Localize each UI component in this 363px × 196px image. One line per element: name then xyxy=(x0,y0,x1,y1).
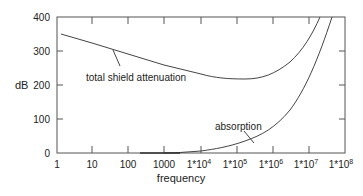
x-tick-label-10: 10 xyxy=(86,159,98,170)
y-axis-label: dB xyxy=(15,79,28,91)
annotation-leader-total xyxy=(113,50,120,66)
x-tick-label-1e8: 1*108 xyxy=(329,158,354,170)
x-ticks-top xyxy=(92,17,309,24)
y-ticks-left xyxy=(57,51,63,119)
series-absorption xyxy=(164,17,332,153)
y-tick-label-0: 0 xyxy=(44,148,50,159)
y-tick-label-100: 100 xyxy=(33,114,50,125)
y-tick-label-400: 400 xyxy=(33,12,50,23)
x-tick-label-1e4: 1*104 xyxy=(187,158,212,170)
x-ticks-bottom xyxy=(92,146,309,153)
series-total-shield-attenuation xyxy=(61,17,320,79)
x-tick-label-1e7: 1*107 xyxy=(294,158,319,170)
y-tick-label-200: 200 xyxy=(33,80,50,91)
plot-frame xyxy=(57,17,345,153)
x-axis-label: frequency xyxy=(157,172,206,184)
x-tick-label-100: 100 xyxy=(120,159,137,170)
x-tick-label-1e5: 1*105 xyxy=(223,158,248,170)
y-ticks-right xyxy=(339,51,345,119)
chart: 0 100 200 300 400 dB 1 10 100 1000 1*104… xyxy=(0,0,363,196)
annotation-absorption: absorption xyxy=(215,121,262,132)
x-tick-label-1000: 1000 xyxy=(153,159,176,170)
y-tick-label-300: 300 xyxy=(33,46,50,57)
x-tick-label-1e6: 1*106 xyxy=(259,158,284,170)
annotation-total-shield-attenuation: total shield attenuation xyxy=(86,72,186,83)
x-tick-label-1: 1 xyxy=(54,159,60,170)
